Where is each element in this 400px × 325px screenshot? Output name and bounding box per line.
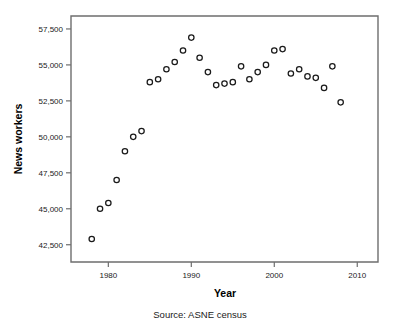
x-axis-title: Year xyxy=(214,287,236,299)
x-tick-label: 2010 xyxy=(348,271,366,280)
x-tick-label: 1990 xyxy=(182,271,200,280)
y-tick-label: 47,500 xyxy=(39,169,64,178)
y-tick-label: 42,500 xyxy=(39,241,64,250)
y-tick-label: 52,500 xyxy=(39,97,64,106)
y-tick-label: 45,000 xyxy=(39,205,64,214)
y-tick-label: 55,000 xyxy=(39,61,64,70)
chart-figure: 42,50045,00047,50050,00052,50055,00057,5… xyxy=(0,0,400,325)
scatter-plot-svg: 42,50045,00047,50050,00052,50055,00057,5… xyxy=(0,0,400,325)
y-tick-label: 50,000 xyxy=(39,133,64,142)
x-tick-label: 2000 xyxy=(265,271,283,280)
y-axis-title: News workers xyxy=(12,104,24,175)
x-tick-label: 1980 xyxy=(99,271,117,280)
source-caption: Source: ASNE census xyxy=(153,309,247,320)
y-tick-label: 57,500 xyxy=(39,25,64,34)
